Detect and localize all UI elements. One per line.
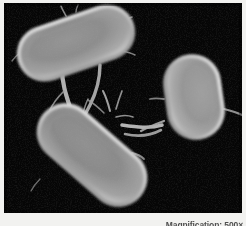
micrograph-canvas <box>4 3 242 213</box>
figure-root: Magnification: 500× <box>0 0 246 226</box>
image-grain-overlay <box>4 3 242 213</box>
micrograph-image <box>4 3 242 213</box>
caption-bar: Magnification: 500× <box>0 214 246 226</box>
magnification-caption: Magnification: 500× <box>166 220 243 226</box>
